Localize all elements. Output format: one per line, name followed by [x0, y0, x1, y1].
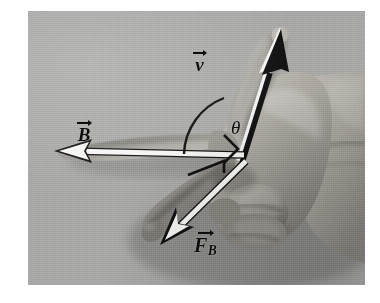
vector-label-b-symbol: B: [78, 125, 91, 144]
vector-label-b: B: [77, 122, 91, 144]
vector-label-b-glyphs: B: [77, 125, 91, 144]
vector-arrow-overbar-fb: [198, 232, 213, 234]
vector-label-v-glyphs: v: [193, 55, 206, 74]
vector-arrow-overbar-v: [193, 52, 206, 54]
vector-label-v-symbol: v: [195, 55, 203, 74]
vector-label-fb-subscript: B: [208, 244, 217, 258]
vector-label-fb-glyphs: F B: [194, 235, 217, 255]
vector-arrow-overbar-b: [77, 122, 91, 124]
vector-label-fb-symbol: F: [194, 235, 207, 255]
figure-container: v B F B θ: [0, 0, 380, 303]
photograph-plate: v B F B θ: [28, 11, 365, 285]
angle-label-theta: θ: [231, 117, 240, 139]
vector-arrow-overbar-fb-wrap: [194, 232, 217, 234]
vector-label-v: v: [193, 52, 206, 74]
vector-label-fb: F B: [194, 232, 217, 255]
